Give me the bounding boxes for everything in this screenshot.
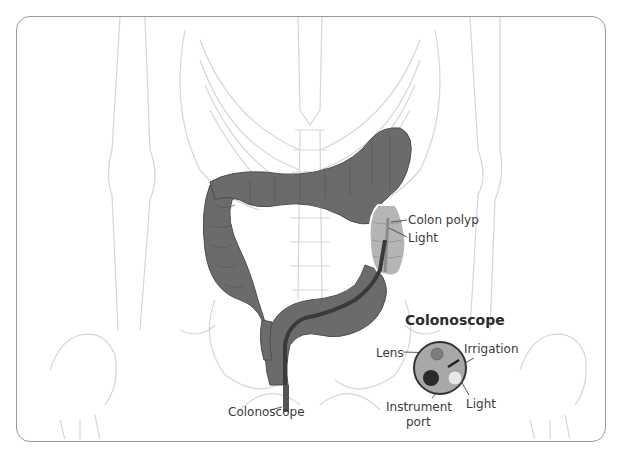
- label-light-tip: Light: [466, 397, 496, 411]
- instrument-port-icon: [423, 370, 439, 386]
- diagram-title: Colonoscope: [405, 312, 505, 328]
- label-light-colon: Light: [408, 231, 438, 245]
- skeleton-background: [50, 17, 586, 440]
- label-irrigation: Irrigation: [464, 342, 519, 356]
- label-colonoscope: Colonoscope: [228, 405, 305, 419]
- label-instrument-port: Instrument: [386, 400, 452, 414]
- lens-icon: [431, 348, 443, 360]
- label-lens: Lens: [376, 346, 404, 360]
- scope-tip-diagram: [414, 342, 466, 394]
- label-colon-polyp: Colon polyp: [408, 213, 479, 227]
- colonoscopy-illustration: [0, 0, 619, 453]
- light-icon: [448, 371, 462, 385]
- label-instrument-port-2: port: [406, 415, 431, 429]
- highlighted-colon-segment: [370, 205, 406, 276]
